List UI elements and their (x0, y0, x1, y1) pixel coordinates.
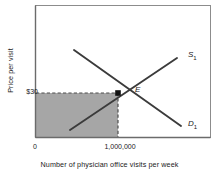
supply-curve-label: S1 (188, 50, 197, 61)
total-expenditure-rectangle (36, 93, 118, 138)
supply-curve-label-subscript: 1 (193, 55, 196, 61)
demand-curve-label: D1 (188, 119, 197, 130)
y-tick-label-price: $30 (16, 88, 38, 95)
demand-curve-label-subscript: 1 (194, 124, 197, 130)
supply-demand-chart: Price per visit Number of physician offi… (0, 0, 219, 172)
x-tick-label-origin: 0 (27, 143, 43, 150)
equilibrium-marker (115, 90, 121, 96)
x-axis-title: Number of physician office visits per we… (0, 160, 219, 169)
equilibrium-label: E (135, 85, 140, 94)
y-axis-title: Price per visit (6, 35, 15, 107)
x-tick-label-quantity: 1,000,000 (90, 143, 150, 150)
